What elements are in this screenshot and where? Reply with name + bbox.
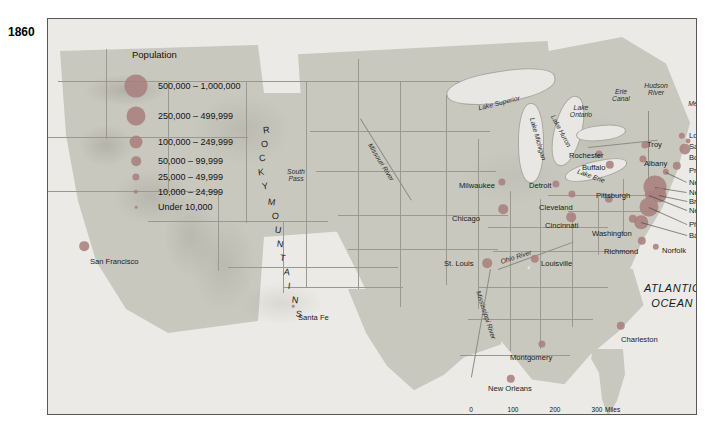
city-label: Charleston (621, 336, 658, 344)
city-dot (498, 204, 508, 214)
city-label: New Orleans (488, 385, 532, 393)
legend-label: 250,000 – 499,999 (158, 111, 233, 121)
legend-swatch (125, 75, 148, 98)
state-border (623, 179, 624, 235)
state-border (348, 249, 498, 250)
city-label: Richmond (604, 248, 638, 256)
state-border (316, 171, 496, 172)
mountain-label-letter: M (267, 197, 276, 208)
state-border (246, 81, 247, 223)
legend-swatch (130, 136, 143, 149)
scale-miles-tick-label: 300 (592, 406, 603, 413)
city-label: Boston (689, 154, 697, 162)
mountain-label-letter: N (276, 239, 284, 250)
water-label: Hudson River (644, 82, 667, 97)
state-border (478, 287, 608, 288)
city-label: Albany (644, 160, 667, 168)
city-dot (482, 258, 492, 268)
mountain-label-letter: K (257, 167, 264, 178)
legend-label: 25,000 – 49,999 (158, 172, 223, 182)
city-dot (292, 305, 295, 308)
state-border (283, 287, 403, 288)
city-label: Detroit (529, 182, 551, 190)
city-label: Santa Fe (298, 314, 329, 322)
mountain-label-letter: Y (261, 181, 268, 192)
state-border (218, 191, 219, 271)
scale-miles-unit: Miles (605, 406, 620, 413)
city-label: Louisville (541, 260, 572, 268)
state-border (148, 221, 328, 222)
population-map-1860: 1860 (0, 0, 705, 439)
city-label: Norfolk (662, 247, 686, 255)
ocean-label-line2: OCEAN (644, 296, 697, 311)
legend-label: 500,000 – 1,000,000 (158, 81, 241, 91)
city-dot (79, 241, 89, 251)
state-border (510, 191, 511, 351)
state-border (446, 95, 447, 285)
city-label: Buffalo (582, 164, 606, 172)
city-label: Philadelphia (689, 221, 697, 229)
legend-label: 10,000 – 24,999 (158, 187, 223, 197)
legend: Population 500,000 – 1,000,000250,000 – … (118, 49, 177, 64)
city-label: San Francisco (90, 258, 139, 266)
state-border (358, 59, 359, 289)
city-label: Pittsburgh (596, 192, 630, 200)
city-label: Troy (647, 141, 662, 149)
mountain-label-letter: T (279, 253, 286, 264)
atlantic-ocean-label: ATLANTIC OCEAN (644, 281, 697, 311)
mountain-label-letter: O (271, 211, 279, 222)
legend-swatch (131, 156, 141, 166)
city-label: New York (689, 189, 697, 197)
water-label: Erie Canal (612, 88, 630, 103)
state-border (338, 215, 508, 216)
state-border (106, 49, 107, 139)
mountain-label-letter: O (260, 139, 268, 150)
mountain-label-letter: C (258, 153, 266, 164)
mountain-label-letter: N (291, 295, 299, 306)
scale-miles-tick-label: 200 (550, 406, 561, 413)
scale-miles-tick-label: 100 (508, 406, 519, 413)
state-border (540, 199, 541, 349)
map-frame: ROCKYMOUNTAINS Lake SuperiorLake Michiga… (47, 18, 697, 415)
city-label: Newark (689, 207, 697, 215)
city-label: Baltimore (689, 232, 697, 240)
city-label: Providence (689, 167, 697, 175)
scale-miles-tick-label: 0 (469, 406, 473, 413)
state-border (598, 195, 599, 255)
city-label: Montgomery (510, 354, 552, 362)
legend-title: Population (132, 49, 177, 60)
city-label: Cincinnati (545, 222, 578, 230)
legend-label: Under 10,000 (158, 202, 213, 212)
legend-label: 100,000 – 249,999 (158, 137, 233, 147)
city-label: New Haven (689, 179, 697, 187)
mountain-label-letter: U (274, 225, 282, 236)
city-label: St. Louis (444, 260, 474, 268)
ocean-label-line1: ATLANTIC (644, 281, 697, 296)
mountain-label-letter: R (262, 125, 270, 136)
water-label: South Pass (287, 168, 305, 183)
city-label: Rochester (569, 152, 604, 160)
legend-swatch (127, 107, 146, 126)
city-label: Brooklyn (689, 198, 697, 206)
state-border (478, 139, 479, 309)
city-label: Lowell (689, 132, 697, 140)
legend-label: 50,000 – 99,999 (158, 156, 223, 166)
city-label: Milwaukee (459, 182, 495, 190)
state-border (400, 81, 401, 307)
water-label: Lake Ontario (570, 104, 592, 119)
city-label: Washington (592, 230, 632, 238)
state-border (572, 215, 573, 327)
year-label: 1860 (8, 25, 35, 39)
state-border (228, 267, 398, 268)
city-label: Cleveland (539, 204, 573, 212)
state-border (306, 81, 307, 287)
city-label: Chicago (452, 215, 480, 223)
legend-swatch (135, 206, 138, 209)
water-label: Merrimack River (688, 100, 697, 115)
